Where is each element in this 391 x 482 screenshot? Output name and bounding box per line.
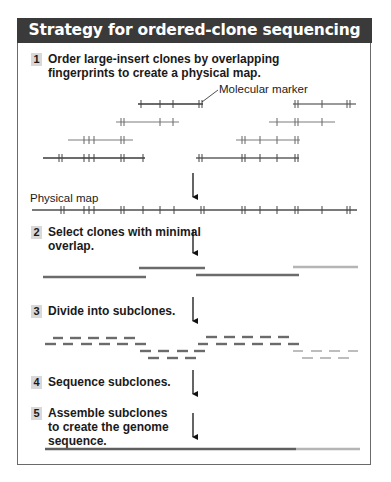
marker-leader-line bbox=[202, 90, 218, 102]
diagram-graphics bbox=[0, 0, 391, 482]
clone-c-left bbox=[68, 136, 133, 144]
subclones bbox=[45, 337, 358, 358]
clone-a-right bbox=[293, 100, 356, 108]
minimal-tiling-clones bbox=[43, 267, 358, 277]
clone-a-left bbox=[138, 90, 218, 108]
clone-rows bbox=[43, 90, 356, 162]
clone-b-right bbox=[269, 118, 335, 126]
clone-c-right bbox=[236, 136, 300, 144]
physical-map-line bbox=[32, 206, 357, 214]
clone-b-left bbox=[116, 118, 179, 126]
clone-d-right bbox=[196, 154, 299, 162]
clone-d-left bbox=[43, 154, 145, 162]
